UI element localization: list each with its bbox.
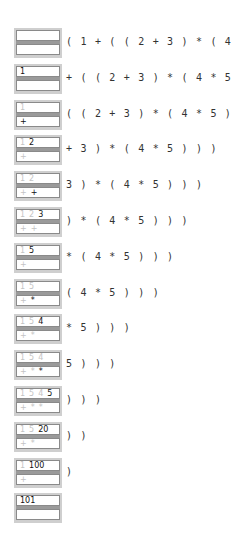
value-stack: 1	[16, 102, 60, 113]
remaining-expression: 5 ) ) )	[66, 358, 117, 369]
value-token: 5	[29, 246, 34, 255]
operator-token: +	[31, 188, 38, 197]
operator-stack: +	[16, 116, 60, 127]
value-token: 1	[20, 103, 25, 112]
value-stack: 12	[16, 137, 60, 148]
remaining-expression: + 3 ) * ( 4 * 5 ) ) )	[66, 143, 218, 154]
value-token: 5	[29, 425, 34, 434]
value-stack: 1100	[16, 460, 60, 471]
remaining-expression: * ( 4 * 5 ) ) )	[66, 251, 174, 262]
step-row: 12++ 3 ) * ( 4 * 5 ) ) )	[14, 135, 238, 165]
operator-token: +	[20, 260, 27, 269]
operator-stack	[16, 509, 60, 520]
value-stack: 12	[16, 173, 60, 184]
step-row: 1+( ( 2 + 3 ) * ( 4 * 5 ) ) )	[14, 100, 238, 130]
value-token: 2	[29, 174, 34, 183]
value-token: 2	[29, 138, 34, 147]
value-token: 1	[20, 210, 25, 219]
value-token: 1	[20, 389, 25, 398]
operator-stack: +*	[16, 295, 60, 306]
operator-token: +	[20, 403, 27, 412]
operator-token: +	[20, 296, 27, 305]
value-stack: 1	[16, 66, 60, 77]
stacks-frame: 101	[14, 493, 62, 523]
value-stack: 154	[16, 316, 60, 327]
operator-token: *	[31, 403, 35, 412]
value-token: 4	[38, 389, 43, 398]
step-row: 15+* ( 4 * 5 ) ) )	[14, 243, 238, 273]
stacks-frame: 15+*	[14, 279, 62, 309]
value-stack: 1520	[16, 424, 60, 435]
step-row: 1100+)	[14, 458, 238, 488]
remaining-expression: ( ( 2 + 3 ) * ( 4 * 5 ) ) )	[66, 108, 238, 119]
stacks-frame: 1100+	[14, 458, 62, 488]
step-row: 154+**5 ) ) )	[14, 350, 238, 380]
step-row: 15+*( 4 * 5 ) ) )	[14, 279, 238, 309]
stacks-frame	[14, 28, 62, 58]
operator-stack: +	[16, 151, 60, 162]
operator-token: *	[31, 367, 35, 376]
operator-token: +	[20, 152, 27, 161]
operator-token: +	[20, 439, 27, 448]
operator-token: +	[20, 117, 27, 126]
operator-stack: +**	[16, 366, 60, 377]
remaining-expression: ) )	[66, 430, 88, 441]
operator-stack: +*	[16, 330, 60, 341]
value-token: 1	[20, 425, 25, 434]
value-stack: 1545	[16, 388, 60, 399]
stacks-frame: 12++	[14, 171, 62, 201]
step-row: 1545+**) ) )	[14, 386, 238, 416]
stacks-frame: 1	[14, 64, 62, 94]
value-token: 20	[38, 425, 48, 434]
remaining-expression: * 5 ) ) )	[66, 322, 131, 333]
step-row: ( 1 + ( ( 2 + 3 ) * ( 4 * 5 ) ) )	[14, 28, 238, 58]
value-token: 1	[20, 317, 25, 326]
value-token: 1	[20, 282, 25, 291]
value-token: 2	[29, 210, 34, 219]
remaining-expression: ) ) )	[66, 394, 102, 405]
value-token: 1	[20, 461, 25, 470]
operator-token: +	[20, 367, 27, 376]
value-stack: 15	[16, 245, 60, 256]
value-token: 1	[20, 246, 25, 255]
remaining-expression: 3 ) * ( 4 * 5 ) ) )	[66, 179, 203, 190]
remaining-expression: ( 1 + ( ( 2 + 3 ) * ( 4 * 5 ) ) )	[66, 36, 238, 47]
step-row: 123++) * ( 4 * 5 ) ) )	[14, 207, 238, 237]
value-token: 4	[38, 317, 43, 326]
value-token: 5	[29, 389, 34, 398]
remaining-expression: + ( ( 2 + 3 ) * ( 4 * 5 ) ) )	[66, 72, 238, 83]
remaining-expression: )	[66, 466, 73, 477]
operator-stack	[16, 44, 60, 55]
step-row: 1520+*) )	[14, 422, 238, 452]
value-token: 1	[20, 138, 25, 147]
operator-token: +	[20, 188, 27, 197]
value-token: 100	[29, 461, 44, 470]
remaining-expression: ( 4 * 5 ) ) )	[66, 287, 160, 298]
stacks-frame: 1520+*	[14, 422, 62, 452]
operator-stack: ++	[16, 187, 60, 198]
stacks-frame: 12+	[14, 135, 62, 165]
value-token: 1	[20, 174, 25, 183]
operator-stack: +	[16, 474, 60, 485]
operator-stack: ++	[16, 223, 60, 234]
stacks-frame: 15+	[14, 243, 62, 273]
operator-stack: +**	[16, 402, 60, 413]
step-row: 101	[14, 493, 238, 523]
value-stack: 15	[16, 281, 60, 292]
value-token: 1	[20, 353, 25, 362]
operator-token: *	[31, 296, 35, 305]
operator-token: *	[31, 439, 35, 448]
step-row: 12++3 ) * ( 4 * 5 ) ) )	[14, 171, 238, 201]
stacks-frame: 1+	[14, 100, 62, 130]
value-token: 5	[47, 389, 52, 398]
stacks-frame: 154+*	[14, 314, 62, 344]
value-token: 4	[38, 353, 43, 362]
step-row: 1+ ( ( 2 + 3 ) * ( 4 * 5 ) ) )	[14, 64, 238, 94]
remaining-expression: ) * ( 4 * 5 ) ) )	[66, 215, 189, 226]
value-token: 3	[38, 210, 43, 219]
stacks-frame: 154+**	[14, 350, 62, 380]
operator-token: +	[20, 331, 27, 340]
operator-token: +	[20, 475, 27, 484]
stacks-frame: 1545+**	[14, 386, 62, 416]
operator-token: *	[31, 331, 35, 340]
